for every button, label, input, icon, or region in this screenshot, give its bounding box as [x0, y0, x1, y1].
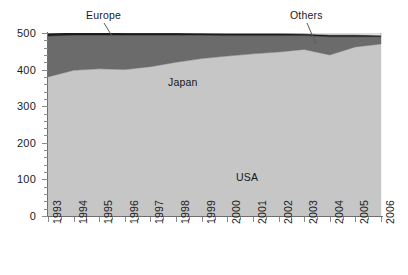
leader-line-others	[307, 23, 316, 44]
annotation-leader-lines	[0, 0, 408, 275]
annotation-others: Others	[290, 10, 323, 21]
annotation-europe: Europe	[86, 10, 121, 21]
leader-line-europe	[104, 23, 112, 36]
chart-figure: USA Japan 0100200300400500 1993199419951…	[0, 0, 408, 275]
